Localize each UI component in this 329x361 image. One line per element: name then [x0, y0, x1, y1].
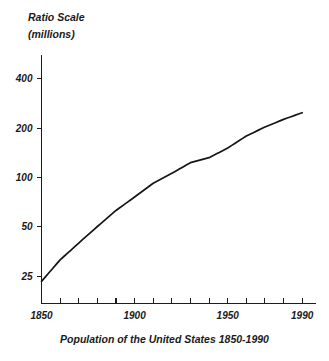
y-tick-label: 100	[16, 172, 33, 183]
x-tick-label: 1900	[123, 310, 146, 321]
y-tick-label: 25	[20, 271, 33, 282]
chart-background	[0, 0, 329, 361]
y-tick-label: 50	[21, 221, 33, 232]
y-tick-label: 200	[15, 123, 33, 134]
chart-caption: Population of the United States 1850-199…	[60, 333, 269, 345]
y-axis-title-line2: (millions)	[28, 28, 75, 40]
x-tick-label: 1990	[291, 310, 314, 321]
x-tick-label: 1950	[217, 310, 240, 321]
population-ratio-scale-chart: Ratio Scale (millions) 2550100200400 185…	[0, 0, 329, 361]
y-axis-title-line1: Ratio Scale	[28, 11, 85, 23]
x-tick-label: 1850	[30, 310, 53, 321]
y-tick-label: 400	[15, 73, 33, 84]
